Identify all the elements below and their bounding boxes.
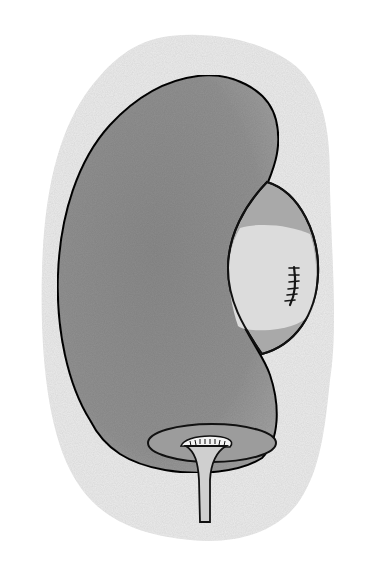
cyst-inner-surface bbox=[229, 225, 316, 330]
kidney-illustration: Kidney with sutured cyst illustration bbox=[0, 0, 371, 567]
illustration-canvas bbox=[0, 0, 371, 567]
